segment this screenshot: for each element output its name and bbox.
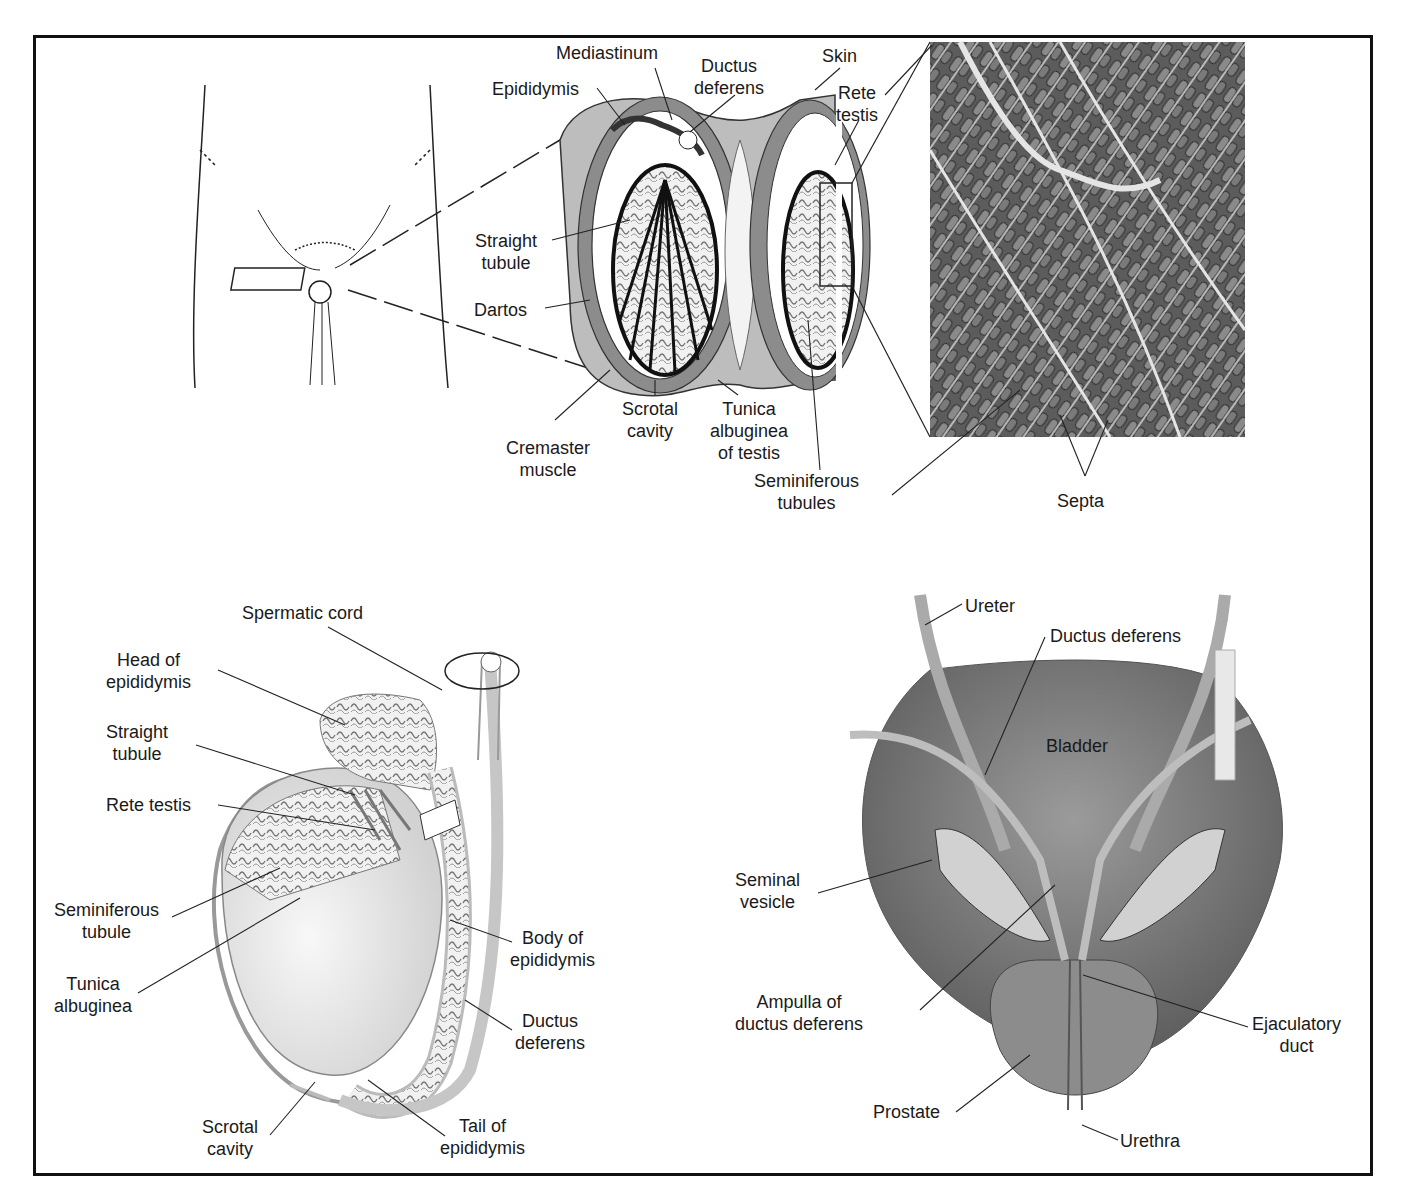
label-prostate: Prostate (873, 1101, 940, 1123)
testis-epididymis-drawing (214, 652, 519, 1110)
label-ejaculatory-duct: Ejaculatory duct (1252, 1013, 1341, 1057)
label-straight-tubule: Straight tubule (106, 721, 168, 765)
label-rete-testis: Rete testis (106, 794, 191, 816)
scrotum-cross-section (560, 85, 870, 396)
label-epididymis: Epididymis (492, 78, 579, 100)
label-skin: Skin (822, 45, 857, 67)
label-tunica-albuginea-testis: Tunica albuginea of testis (710, 398, 788, 464)
label-ampulla-of-ductus-deferens: Ampulla of ductus deferens (735, 991, 863, 1035)
label-cremaster-muscle: Cremaster muscle (506, 437, 590, 481)
seminiferous-tubule-micrograph (930, 42, 1245, 437)
label-ductus-deferens-section: Ductus deferens (694, 55, 764, 99)
label-rete-testis-section: Rete testis (836, 82, 878, 126)
label-bladder: Bladder (1046, 735, 1108, 757)
bladder-drawing (850, 595, 1283, 1110)
label-urethra: Urethra (1120, 1130, 1180, 1152)
label-seminiferous-tubule: Seminiferous tubule (54, 899, 159, 943)
label-body-of-epididymis: Body of epididymis (510, 927, 595, 971)
label-septa: Septa (1057, 490, 1104, 512)
body-outline (194, 85, 600, 388)
label-seminal-vesicle: Seminal vesicle (735, 869, 800, 913)
anatomy-illustration (0, 0, 1408, 1190)
label-scrotal-cavity-section: Scrotal cavity (622, 398, 678, 442)
label-scrotal-cavity: Scrotal cavity (202, 1116, 258, 1160)
label-ductus-deferens-bladder: Ductus deferens (1050, 625, 1181, 647)
label-head-of-epididymis: Head of epididymis (106, 649, 191, 693)
label-spermatic-cord: Spermatic cord (242, 602, 363, 624)
label-ureter: Ureter (965, 595, 1015, 617)
label-tunica-albuginea: Tunica albuginea (54, 973, 132, 1017)
label-mediastinum: Mediastinum (556, 42, 658, 64)
label-tail-of-epididymis: Tail of epididymis (440, 1115, 525, 1159)
label-ductus-deferens-testis: Ductus deferens (515, 1010, 585, 1054)
label-dartos: Dartos (474, 299, 527, 321)
label-seminiferous-tubules: Seminiferous tubules (754, 470, 859, 514)
label-straight-tubule-section: Straight tubule (475, 230, 537, 274)
